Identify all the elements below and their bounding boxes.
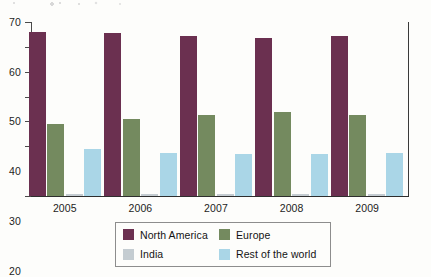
legend-item-india: India xyxy=(123,248,219,260)
bar-india xyxy=(368,194,385,196)
bar-north-america xyxy=(255,38,272,196)
bar-group xyxy=(331,22,404,196)
y-axis-tick-label: 60 xyxy=(9,66,21,78)
bar-group xyxy=(104,22,177,196)
legend-item-europe: Europe xyxy=(219,229,330,241)
bar-rest-of-the-world xyxy=(311,154,328,196)
x-axis-tick-label: 2009 xyxy=(355,202,379,214)
x-axis-tick-label: 2008 xyxy=(280,202,304,214)
bar-europe xyxy=(47,124,64,196)
y-axis-tick-label: 40 xyxy=(9,165,21,177)
bar-europe xyxy=(349,115,366,196)
y-axis-tick-label: 30 xyxy=(9,215,21,227)
bar-rest-of-the-world xyxy=(160,153,177,197)
bar-europe xyxy=(123,119,140,196)
legend-swatch-india xyxy=(123,249,134,260)
y-axis-tick-mark: 0 xyxy=(25,196,31,197)
bar-india xyxy=(141,194,158,196)
bar-india xyxy=(217,194,234,196)
legend-swatch-rest-of-the-world xyxy=(219,249,230,260)
legend-label-rest-of-the-world: Rest of the world xyxy=(236,248,317,260)
x-axis-tick-label: 2006 xyxy=(129,202,153,214)
bar-north-america xyxy=(104,33,121,196)
right-spine-line xyxy=(408,22,409,196)
y-axis-tick-label: 20 xyxy=(9,265,21,277)
bar-rest-of-the-world xyxy=(235,154,252,196)
plot-area: 0203040506070 20052006200720082009 xyxy=(31,22,409,196)
bar-north-america xyxy=(180,36,197,196)
bar-group xyxy=(255,22,328,196)
bar-group xyxy=(29,22,102,196)
bar-india xyxy=(66,194,83,196)
bar-group xyxy=(180,22,253,196)
legend-label-india: India xyxy=(140,248,163,260)
chart-legend: North America Europe India Rest of the w… xyxy=(115,222,331,267)
legend-item-north-america: North America xyxy=(123,229,219,241)
legend-swatch-north-america xyxy=(123,229,134,240)
legend-label-north-america: North America xyxy=(140,229,208,241)
bar-europe xyxy=(274,112,291,197)
bar-rest-of-the-world xyxy=(386,153,403,197)
bar-rest-of-the-world xyxy=(84,149,101,196)
y-axis-tick-label: 50 xyxy=(9,115,21,127)
y-axis-tick-label: 70 xyxy=(9,16,21,28)
bar-europe xyxy=(198,115,215,196)
x-axis-tick-label: 2007 xyxy=(204,202,228,214)
grouped-bar-chart: 0203040506070 20052006200720082009 North… xyxy=(0,0,431,277)
bar-north-america xyxy=(331,36,348,196)
bar-india xyxy=(292,194,309,196)
x-axis-tick-label: 2005 xyxy=(53,202,77,214)
x-axis-line xyxy=(31,196,409,197)
bar-north-america xyxy=(29,32,46,196)
legend-swatch-europe xyxy=(219,229,230,240)
legend-label-europe: Europe xyxy=(236,229,270,241)
legend-item-rest-of-the-world: Rest of the world xyxy=(219,248,330,260)
